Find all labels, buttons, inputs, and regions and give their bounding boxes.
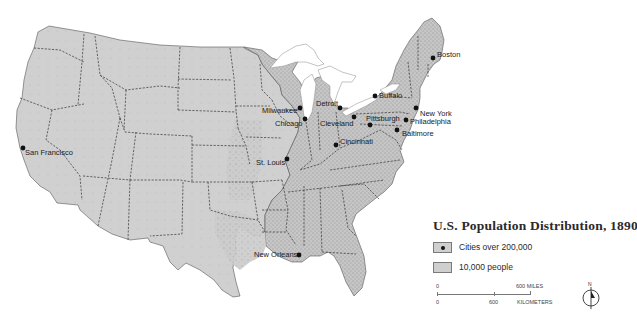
scale-km-unit: KILOMETERS	[517, 299, 552, 305]
north-arrow-icon: N	[580, 280, 602, 310]
city-label: New Orleans	[254, 250, 298, 259]
city-label: San Francisco	[25, 148, 73, 157]
city-swatch-icon	[433, 242, 452, 253]
city-milwaukee[interactable]: Milwaukee	[262, 106, 302, 115]
population-swatch-icon	[433, 262, 452, 273]
scale-tick	[530, 291, 531, 295]
city-dot-icon	[414, 106, 419, 111]
legend-item-people: 10,000 people	[433, 260, 633, 274]
city-dot-icon	[303, 117, 308, 122]
city-label: Cincinnati	[340, 137, 373, 146]
scale-km-mid: 600	[489, 299, 498, 305]
us-population-map-1890: Boston Buffalo New York Philadelphia Bal…	[0, 0, 637, 324]
city-st-louis[interactable]: St. Louis	[256, 157, 289, 167]
map-legend: U.S. Population Distribution, 1890 Citie…	[433, 218, 633, 274]
city-label: St. Louis	[256, 158, 285, 167]
city-label: Cleveland	[320, 119, 353, 128]
city-label: Buffalo	[379, 91, 402, 100]
legend-label: Cities over 200,000	[459, 242, 532, 252]
lake-superior	[270, 44, 324, 68]
city-label: Milwaukee	[262, 106, 297, 115]
svg-text:N: N	[588, 281, 592, 287]
city-dot-icon	[338, 106, 343, 111]
legend-label: 10,000 people	[459, 262, 513, 272]
city-label: Chicago	[275, 119, 303, 128]
city-cincinnati[interactable]: Cincinnati	[334, 137, 374, 147]
scale-km-start: 0	[436, 299, 439, 305]
city-dot-icon	[334, 143, 339, 148]
city-dot-icon	[368, 123, 373, 128]
scale-tick	[494, 292, 495, 296]
city-philadelphia[interactable]: Philadelphia	[404, 117, 452, 126]
city-dot-icon	[285, 157, 290, 162]
scale-line	[437, 294, 530, 295]
city-label: Philadelphia	[410, 117, 452, 126]
city-san-francisco[interactable]: San Francisco	[21, 146, 73, 157]
city-new-orleans[interactable]: New Orleans	[254, 250, 301, 259]
scale-miles-start: 0	[436, 283, 439, 289]
city-label: Pittsburgh	[366, 114, 400, 123]
city-dot-icon	[404, 118, 409, 123]
city-dot-icon	[431, 56, 436, 61]
city-dot-icon	[373, 94, 378, 99]
city-dot-icon	[298, 106, 303, 111]
scale-miles-end: 600 MILES	[516, 283, 543, 289]
city-dot-icon	[395, 128, 400, 133]
scale-tick	[437, 292, 438, 296]
legend-item-cities: Cities over 200,000	[433, 240, 633, 254]
city-label: Baltimore	[402, 129, 434, 138]
scale-bar: 0 600 MILES 0 600 KILOMETERS	[436, 283, 576, 313]
city-label: Detroit	[316, 99, 339, 108]
city-label: Boston	[437, 50, 460, 59]
map-title: U.S. Population Distribution, 1890	[433, 218, 633, 234]
